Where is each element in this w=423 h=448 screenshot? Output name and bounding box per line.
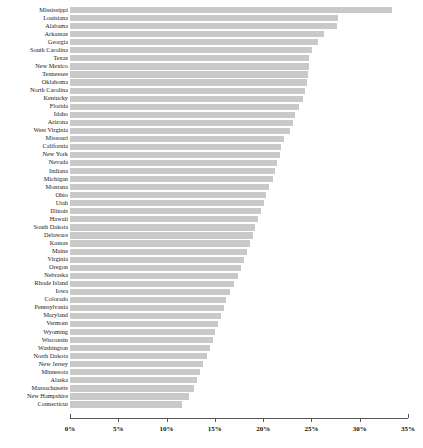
bar-chart: MississippiLouisianaAlabamaArkansasGeorg…	[0, 0, 423, 448]
bar-category-label: Missouri	[2, 134, 68, 142]
bar-category-label: Nebraska	[2, 271, 68, 279]
bar-category-label: Arizona	[2, 118, 68, 126]
bar	[70, 240, 250, 246]
x-axis-tick-label: 25%	[291, 425, 331, 433]
bar	[70, 160, 277, 166]
bar-category-label: South Dakota	[2, 223, 68, 231]
bar	[70, 216, 258, 222]
bar	[70, 273, 238, 279]
x-axis-tick	[263, 418, 264, 422]
x-axis-line	[70, 418, 408, 419]
bar-category-label: Texas	[2, 54, 68, 62]
bar-category-label: Georgia	[2, 38, 68, 46]
bar	[70, 257, 244, 263]
bar	[70, 249, 247, 255]
bar	[70, 63, 309, 69]
bar-category-label: Oklahoma	[2, 78, 68, 86]
bar	[70, 289, 230, 295]
bar-row: Connecticut	[0, 400, 423, 408]
bar-category-label: New Hampshire	[2, 392, 68, 400]
bar	[70, 47, 312, 53]
bar-category-label: California	[2, 142, 68, 150]
bar	[70, 71, 308, 77]
bar	[70, 385, 194, 391]
bar-category-label: West Virginia	[2, 126, 68, 134]
bar	[70, 31, 324, 37]
bar-category-label: Minnesota	[2, 368, 68, 376]
bar-category-label: Hawaii	[2, 215, 68, 223]
bar	[70, 337, 213, 343]
x-axis-tick	[408, 414, 409, 418]
bar-category-label: Maine	[2, 247, 68, 255]
bar	[70, 120, 293, 126]
x-axis-tick	[360, 418, 361, 422]
x-axis-tick-label: 10%	[147, 425, 187, 433]
bar	[70, 281, 234, 287]
bar-category-label: Iowa	[2, 287, 68, 295]
bar-category-label: Idaho	[2, 110, 68, 118]
bar	[70, 39, 318, 45]
bar	[70, 144, 281, 150]
bar	[70, 23, 337, 29]
bar	[70, 15, 338, 21]
bar	[70, 353, 207, 359]
bar	[70, 313, 221, 319]
bar-category-label: Illinois	[2, 207, 68, 215]
x-axis-tick	[70, 414, 71, 418]
bar	[70, 297, 226, 303]
bar-category-label: Virginia	[2, 255, 68, 263]
bar-category-label: Florida	[2, 102, 68, 110]
plot-area: MississippiLouisianaAlabamaArkansasGeorg…	[0, 0, 423, 412]
bar	[70, 104, 299, 110]
bar	[70, 152, 280, 158]
bar-category-label: North Carolina	[2, 86, 68, 94]
bar-category-label: Ohio	[2, 191, 68, 199]
x-axis-tick-label: 30%	[340, 425, 380, 433]
bar-category-label: Wisconsin	[2, 336, 68, 344]
bar-category-label: Massachusetts	[2, 384, 68, 392]
x-axis-tick	[215, 418, 216, 422]
bar	[70, 55, 309, 61]
bar	[70, 96, 303, 102]
bar	[70, 305, 224, 311]
x-axis-tick-label: 35%	[388, 425, 423, 433]
bar	[70, 265, 241, 271]
bar-category-label: Delaware	[2, 231, 68, 239]
bar-category-label: New Mexico	[2, 62, 68, 70]
bar-category-label: Mississippi	[2, 6, 68, 14]
bar	[70, 168, 275, 174]
bar	[70, 377, 197, 383]
bar-category-label: Maryland	[2, 311, 68, 319]
bar	[70, 184, 269, 190]
x-axis-tick-label: 0%	[50, 425, 90, 433]
bar	[70, 112, 295, 118]
bar-category-label: Indiana	[2, 167, 68, 175]
bar-category-label: Colorado	[2, 295, 68, 303]
bar-category-label: Arkansas	[2, 30, 68, 38]
bar	[70, 88, 305, 94]
bar	[70, 361, 203, 367]
x-axis: 0%5%10%15%20%25%30%35%	[0, 418, 423, 448]
bar	[70, 345, 210, 351]
bar-category-label: Oregon	[2, 263, 68, 271]
x-axis-tick-label: 20%	[243, 425, 283, 433]
bar	[70, 128, 290, 134]
bar-category-label: Kansas	[2, 239, 68, 247]
bar	[70, 329, 215, 335]
bar	[70, 79, 307, 85]
x-axis-tick	[118, 418, 119, 422]
bar-category-label: Rhode Island	[2, 279, 68, 287]
bar	[70, 192, 266, 198]
bar	[70, 232, 253, 238]
bar-category-label: Utah	[2, 199, 68, 207]
bar-category-label: Alabama	[2, 22, 68, 30]
bar-category-label: Pennsylvania	[2, 303, 68, 311]
bar	[70, 208, 261, 214]
bar-category-label: Alaska	[2, 376, 68, 384]
bar-category-label: Louisiana	[2, 14, 68, 22]
x-axis-tick-label: 5%	[98, 425, 138, 433]
bar	[70, 393, 189, 399]
bar	[70, 7, 392, 13]
bar-category-label: South Carolina	[2, 46, 68, 54]
bar-category-label: Connecticut	[2, 400, 68, 408]
